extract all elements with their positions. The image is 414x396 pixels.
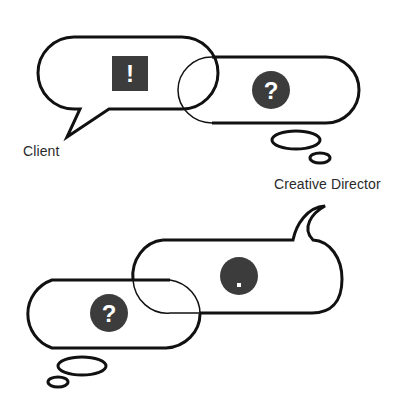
diagram-illustration: ! ? ?	[0, 0, 414, 396]
question-circle-icon-top: ?	[252, 71, 290, 109]
overlap-outline-top	[182, 37, 218, 109]
period-circle-icon	[220, 257, 258, 295]
exclamation-square-icon: !	[112, 56, 148, 91]
svg-text:?: ?	[264, 77, 279, 104]
creative-director-label: Creative Director	[274, 176, 381, 192]
diagram-canvas: ! ? ? Client Creative Dire	[0, 0, 414, 396]
svg-text:?: ?	[102, 300, 117, 327]
svg-text:!: !	[126, 60, 134, 87]
question-circle-icon-bottom: ?	[90, 294, 128, 332]
client-label: Client	[23, 143, 59, 159]
